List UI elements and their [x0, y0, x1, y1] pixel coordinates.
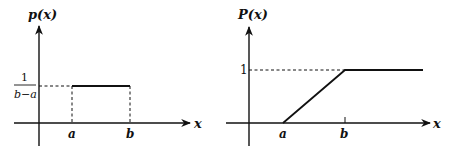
pdf-plot: p(x) x 1 b−a a b: [14, 7, 202, 146]
uniform-distribution-diagram: p(x) x 1 b−a a b P(x) x 1 a b: [0, 0, 450, 158]
pdf-tick-a: a: [68, 127, 76, 141]
cdf-tick-b: b: [340, 127, 348, 141]
cdf-y-label: P(x): [237, 7, 268, 22]
pdf-x-label: x: [193, 116, 202, 131]
pdf-tick-b: b: [126, 127, 134, 141]
pdf-level-denominator: b−a: [14, 88, 37, 101]
cdf-curve: [283, 70, 423, 123]
cdf-plot: P(x) x 1 a b: [226, 7, 441, 146]
cdf-x-label: x: [432, 116, 441, 131]
pdf-y-label: p(x): [28, 7, 57, 22]
pdf-level-numerator: 1: [21, 71, 28, 84]
cdf-level-label: 1: [240, 63, 248, 77]
cdf-tick-a: a: [279, 127, 287, 141]
